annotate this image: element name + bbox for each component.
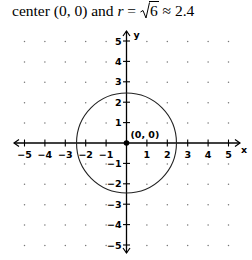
grid-dot [24,245,26,247]
grid-dot [85,41,87,43]
grid-dot [44,245,46,247]
grid-dot [167,204,169,206]
x-tick-label: −2 [78,149,93,160]
grid-dot [44,61,46,63]
grid-dot [85,184,87,186]
grid-dot [44,224,46,226]
grid-dot [207,184,209,186]
grid-dot [228,163,230,165]
grid-dot [167,41,169,43]
grid-dot [85,163,87,165]
grid-dot [228,102,230,104]
grid-dot [167,82,169,84]
grid-dot [228,61,230,63]
grid-dot [207,163,209,165]
grid-dot [44,204,46,206]
grid-dot [146,163,148,165]
grid-dot [65,224,67,226]
grid-dot [187,82,189,84]
grid-dot [24,82,26,84]
grid-dot [146,245,148,247]
grid-dot [44,122,46,124]
y-tick-label: −4 [107,219,122,230]
grid-dot [167,184,169,186]
grid-dot [187,61,189,63]
grid-dot [146,204,148,206]
grid-dot [105,122,107,124]
grid-dot [146,82,148,84]
y-tick-label: −3 [107,199,122,210]
x-tick-label: 5 [225,149,232,160]
grid-dot [207,41,209,43]
grid-dot [65,122,67,124]
grid-dot [65,41,67,43]
grid-dot [24,204,26,206]
coordinate-plane: −5−4−3−2−112345−5−4−3−2−112345xy(0, 0) [0,0,252,260]
x-tick-label: −5 [17,149,32,160]
grid-dot [146,102,148,104]
grid-dot [187,163,189,165]
grid-dot [187,41,189,43]
x-tick-label: 3 [184,149,191,160]
x-tick-label: 1 [144,149,151,160]
grid-dot [24,163,26,165]
grid-dot [24,41,26,43]
center-point [124,140,130,146]
grid-dot [146,224,148,226]
grid-dot [105,41,107,43]
y-axis-label: y [134,29,141,40]
grid-dot [228,82,230,84]
y-tick-label: 1 [115,117,122,128]
y-tick-label: −5 [107,240,122,251]
grid-dot [207,122,209,124]
y-tick-label: 3 [115,76,122,87]
grid-dot [187,245,189,247]
y-tick-label: 4 [115,56,122,67]
grid-dot [105,102,107,104]
grid-dot [146,122,148,124]
grid-dot [85,82,87,84]
grid-dot [207,102,209,104]
grid-dot [44,184,46,186]
grid-dot [24,102,26,104]
x-tick-label: 4 [205,149,212,160]
grid-dot [105,82,107,84]
grid-dot [187,224,189,226]
grid-dot [65,204,67,206]
grid-dot [44,41,46,43]
grid-dot [228,41,230,43]
grid-dot [228,224,230,226]
grid-dot [85,61,87,63]
grid-dot [207,61,209,63]
y-tick-label: −1 [107,158,122,169]
grid-dot [65,245,67,247]
grid-dot [65,163,67,165]
grid-dot [167,61,169,63]
grid-dot [24,224,26,226]
grid-dot [85,102,87,104]
grid-dot [44,102,46,104]
grid-dot [44,163,46,165]
grid-dot [105,61,107,63]
y-tick-label: 2 [115,97,122,108]
grid-dot [85,224,87,226]
grid-dot [65,184,67,186]
grid-dot [207,82,209,84]
grid-dot [44,82,46,84]
grid-dot [65,61,67,63]
grid-dot [207,224,209,226]
grid-dot [24,184,26,186]
grid-dot [167,224,169,226]
grid-dot [146,61,148,63]
x-axis-label: x [241,144,247,155]
y-tick-label: 5 [115,36,122,47]
grid-dot [228,245,230,247]
grid-dot [187,122,189,124]
grid-dot [167,102,169,104]
grid-dot [207,204,209,206]
grid-dot [228,204,230,206]
x-tick-label: 2 [164,149,171,160]
grid-dot [187,102,189,104]
grid-dot [85,245,87,247]
grid-dot [65,82,67,84]
